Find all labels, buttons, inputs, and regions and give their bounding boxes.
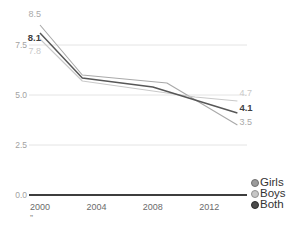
y-tick-label-7.5: 7.5 [15,40,27,50]
series-end-label-girls: 3.5 [239,117,252,127]
caption-fragment: ” [30,213,33,223]
legend-dot-boys-icon [251,190,259,198]
legend-dot-girls-icon [251,179,259,187]
legend-dot-both-icon [251,201,259,209]
legend-item-both: Both [251,199,286,210]
legend-label-both: Both [260,199,284,210]
series-start-label-girls: 8.5 [28,9,41,19]
x-tick-label-2012: 2012 [199,202,219,212]
y-tick-label-5.0: 5.0 [15,90,27,100]
x-tick-label-2004: 2004 [86,202,106,212]
x-tick-label-2008: 2008 [143,202,163,212]
x-tick-label-2000: 2000 [30,202,50,212]
series-start-label-boys: 7.8 [28,46,41,56]
legend: GirlsBoysBoth [251,177,286,210]
series-end-label-boys: 4.7 [239,88,252,98]
line-chart: 0.02.55.07.520002004200820128.53.57.84.7… [0,0,304,229]
series-line-girls [40,25,237,125]
series-line-boys [40,39,237,101]
y-tick-label-2.5: 2.5 [15,140,27,150]
series-end-label-both: 4.1 [239,102,253,113]
y-tick-label-0.0: 0.0 [15,190,27,200]
series-start-label-both: 8.1 [28,32,42,43]
